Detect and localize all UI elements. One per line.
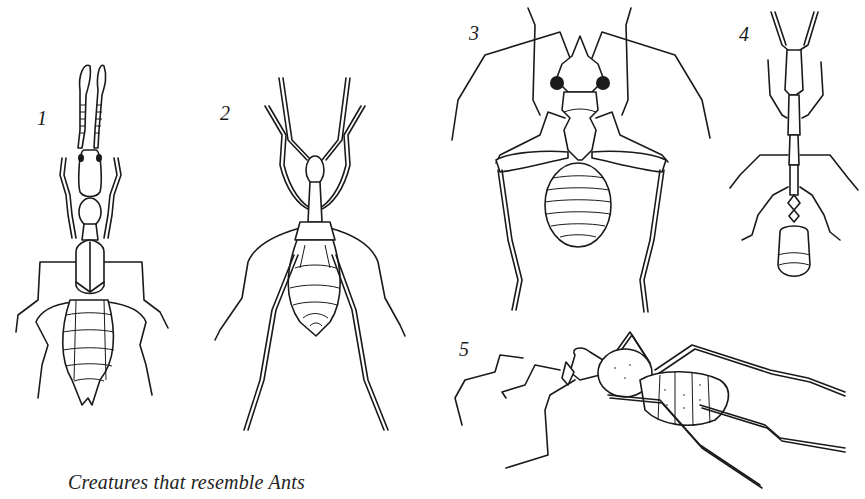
plate-caption: Creatures that resemble Ants	[68, 471, 305, 494]
figure-5-cricket-drawing	[0, 0, 865, 499]
illustration-plate: 1 2 3 4 5	[0, 0, 865, 499]
